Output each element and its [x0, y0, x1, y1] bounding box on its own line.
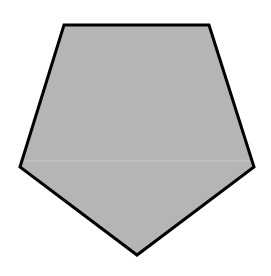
pentagon-shape	[20, 25, 254, 255]
diagram-canvas	[0, 0, 271, 276]
pentagon-diagram	[0, 0, 271, 276]
